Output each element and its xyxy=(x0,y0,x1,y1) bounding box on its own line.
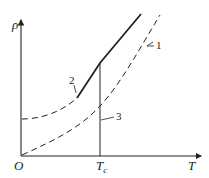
tc-label: Tc xyxy=(96,158,107,175)
label-1-leader xyxy=(147,42,153,46)
curve-2-dashed-extension xyxy=(22,98,77,119)
y-axis-label: ρ xyxy=(11,17,18,32)
label-3-leader xyxy=(101,117,114,120)
curve-2-label: 2 xyxy=(69,74,75,86)
origin-label: O xyxy=(14,158,24,173)
curve-3-label: 3 xyxy=(116,110,122,122)
resistivity-temperature-diagram: ρ T O Tc 1 2 3 xyxy=(0,0,209,178)
curve-1-label: 1 xyxy=(156,39,162,51)
curve-2-solid xyxy=(77,14,141,98)
label-2-leader xyxy=(74,85,76,93)
x-axis-label: T xyxy=(188,158,196,173)
curve-1-3-dashed xyxy=(22,15,160,155)
